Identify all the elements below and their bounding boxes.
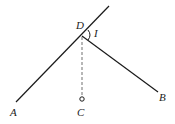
geometry-diagram: D I A C B xyxy=(0,0,175,124)
label-b: B xyxy=(159,91,166,103)
label-i: I xyxy=(93,27,99,39)
line-a-to-top xyxy=(16,6,109,102)
label-a: A xyxy=(9,106,17,118)
line-d-to-b xyxy=(82,36,158,92)
label-c: C xyxy=(77,106,85,118)
angle-arc-i xyxy=(88,30,90,40)
label-d: D xyxy=(75,19,84,31)
point-c-marker xyxy=(80,97,84,101)
